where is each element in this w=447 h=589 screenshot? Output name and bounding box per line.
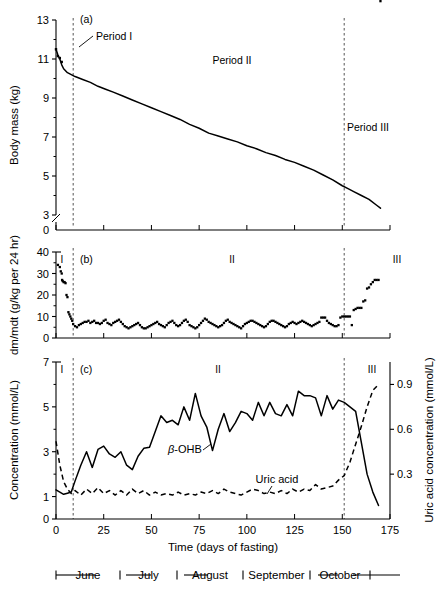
mass-loss-rate-point <box>139 324 141 326</box>
mass-loss-rate-point <box>57 264 59 266</box>
panel-c-ytick-right-label: 0.3 <box>397 468 412 480</box>
mass-loss-rate-point <box>265 325 267 327</box>
mass-loss-rate-point <box>377 279 379 281</box>
x-axis-title: Time (days of fasting) <box>168 541 278 553</box>
mass-loss-rate-point <box>137 322 139 324</box>
mass-loss-rate-point <box>372 281 374 283</box>
panel-c-ytick-label: 1 <box>43 491 49 503</box>
mass-loss-rate-point <box>187 321 189 323</box>
panel-b: 010203040dm/mdt (g/kg per 24 hr)(b)IIIII… <box>8 0 401 355</box>
uric-acid-series-label: Uric acid <box>256 473 299 485</box>
mass-loss-rate-point <box>166 324 168 326</box>
mass-loss-rate-point <box>318 321 320 323</box>
panel-b-roman-1: I <box>61 254 64 265</box>
mass-loss-rate-point <box>198 324 200 326</box>
panel-c-roman-2: II <box>215 364 221 375</box>
x-axis-tick-label: 175 <box>381 524 399 536</box>
panel-c-label: (c) <box>80 363 92 375</box>
month-label-september: September <box>248 569 304 581</box>
panel-a-ytick-label: 5 <box>43 170 49 182</box>
panel-b-ytick-label: 0 <box>43 332 49 344</box>
bohb-curve <box>56 391 379 505</box>
panel-c-ytick-label: 0 <box>43 513 49 525</box>
uric-acid-curve <box>56 384 379 495</box>
panel-a-label: (a) <box>80 13 93 25</box>
mass-loss-rate-point <box>200 322 202 324</box>
mass-loss-rate-point <box>101 322 103 324</box>
mass-loss-rate-point <box>360 307 362 309</box>
mass-loss-rate-point <box>206 319 208 321</box>
bohb-leader-line <box>203 444 211 450</box>
panel-c: 013570.30.60.90255075100125150175Concent… <box>8 356 435 536</box>
mass-loss-rate-point <box>337 324 339 326</box>
x-axis-tick-label: 25 <box>98 524 110 536</box>
x-axis-tick-label: 100 <box>238 524 256 536</box>
mass-loss-rate-point <box>196 326 198 328</box>
body-mass-point <box>55 48 57 50</box>
mass-loss-rate-point <box>202 320 204 322</box>
panel-c-y-axis-right-title: Uric acid concentration (mmol/L) <box>423 357 435 523</box>
panel-c-roman-1: I <box>61 364 64 375</box>
x-axis-tick-label: 0 <box>53 524 59 536</box>
body-mass-point <box>61 61 63 63</box>
mass-loss-rate-point <box>68 313 70 315</box>
mass-loss-rate-point <box>179 324 181 326</box>
panel-c-ytick-right-label: 0.6 <box>397 423 412 435</box>
panel-a: 357911130Body mass (kg)(a)Period IPeriod… <box>8 13 390 236</box>
panel-a-y-axis-title: Body mass (kg) <box>8 85 20 165</box>
period-1-leader-line <box>79 36 93 47</box>
panel-b-ytick-label: 20 <box>37 289 49 301</box>
panel-a-period-3-label: Period III <box>347 121 389 133</box>
panel-a-ytick-label: 13 <box>37 14 49 26</box>
panel-a-ytick-label: 9 <box>43 92 49 104</box>
month-legend: JuneJulyAugustSeptemberOctober <box>56 569 400 581</box>
mass-loss-rate-point <box>267 323 269 325</box>
mass-loss-rate-point <box>67 311 69 313</box>
mass-loss-rate-point <box>227 319 229 321</box>
mass-loss-rate-point <box>349 315 351 317</box>
mass-loss-rate-point <box>242 325 244 327</box>
x-axis-tick-label: 125 <box>285 524 303 536</box>
bohb-series-label: β-OHB <box>167 443 202 455</box>
mass-loss-rate-point <box>72 323 74 325</box>
x-axis-tick-label: 150 <box>333 524 351 536</box>
body-mass-point <box>59 57 61 59</box>
mass-loss-rate-point <box>370 283 372 285</box>
panel-a-ytick-label: 3 <box>43 209 49 221</box>
mass-loss-rate-point <box>173 322 175 324</box>
mass-loss-rate-point <box>351 324 353 326</box>
mass-loss-rate-point <box>76 326 78 328</box>
mass-loss-rate-point <box>181 322 183 324</box>
figure-content: 357911130Body mass (kg)(a)Period IPeriod… <box>8 0 435 581</box>
x-axis-tick-label: 75 <box>193 524 205 536</box>
panel-c-ytick-right-label: 0.9 <box>397 378 412 390</box>
mass-loss-rate-point <box>110 324 112 326</box>
panel-b-ytick-label: 40 <box>37 246 49 258</box>
panel-c-ytick-label: 5 <box>43 401 49 413</box>
mass-loss-rate-point <box>64 282 66 284</box>
mass-loss-rate-point <box>71 320 73 322</box>
mass-loss-rate-point <box>120 321 122 323</box>
panel-b-ytick-label: 10 <box>37 311 49 323</box>
mass-loss-rate-point <box>59 266 61 268</box>
mass-loss-rate-point <box>66 296 68 298</box>
panel-b-roman-3: III <box>393 254 401 265</box>
mass-loss-rate-point <box>240 327 242 329</box>
panel-a-ytick-label: 11 <box>38 53 49 65</box>
panel-c-ytick-label: 3 <box>43 446 49 458</box>
mass-loss-rate-point <box>324 316 326 318</box>
mass-loss-rate-point <box>286 325 288 327</box>
mass-loss-rate-point <box>118 319 120 321</box>
mass-loss-rate-point <box>171 320 173 322</box>
panel-b-label: (b) <box>80 253 93 265</box>
figure-root: 357911130Body mass (kg)(a)Period IPeriod… <box>0 0 447 589</box>
fasting-physiology-figure: 357911130Body mass (kg)(a)Period IPeriod… <box>0 0 447 589</box>
panel-b-ytick-label: 30 <box>37 268 49 280</box>
mass-loss-rate-point <box>69 315 71 317</box>
panel-a-period-1-label: Period I <box>96 30 132 42</box>
mass-loss-rate-point <box>93 320 95 322</box>
mass-loss-rate-point <box>223 322 225 324</box>
panel-b-roman-2: II <box>229 254 235 265</box>
mass-loss-rate-point <box>379 0 381 2</box>
mass-loss-rate-point <box>164 326 166 328</box>
